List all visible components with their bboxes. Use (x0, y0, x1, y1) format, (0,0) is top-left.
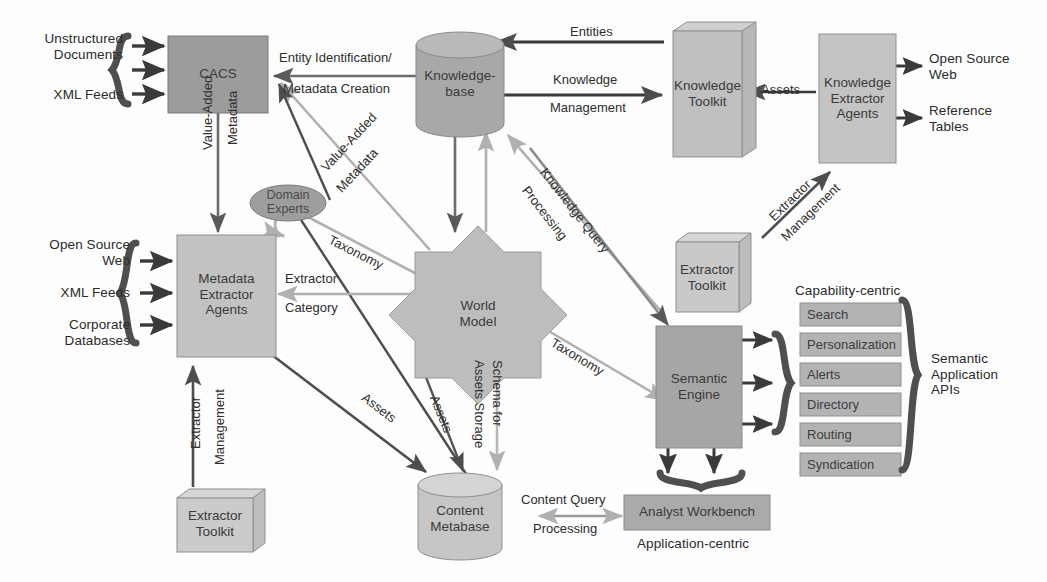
capability-group-label: Capability-centric (795, 283, 900, 299)
edge-label-extractor-category-2: Category (285, 300, 338, 315)
capability-box-3[interactable] (800, 393, 901, 416)
node-extractor-toolkit-left[interactable] (177, 489, 265, 552)
architecture-diagram: CACS Knowledge- base Knowledge Toolkit K… (0, 0, 1047, 582)
capability-box-2[interactable] (800, 363, 901, 386)
node-metadata-extractor-agents[interactable] (177, 235, 276, 357)
metadata-source-label-1: XML Feeds (26, 285, 130, 301)
node-analyst-workbench[interactable] (624, 495, 770, 530)
edge-label-knowledge-management-1: Knowledge (553, 72, 617, 87)
capability-boxes (800, 303, 901, 476)
cacs-source-label-1: XML Feeds (41, 87, 123, 103)
edge-label-schema-1: Schema for (490, 360, 505, 426)
metadata-source-label-0: Open Source Web (26, 237, 130, 268)
edge-label-cqp-2: Processing (533, 521, 597, 536)
capability-box-4[interactable] (800, 423, 901, 446)
brace-workbench-inputs (660, 473, 742, 488)
node-knowledge-extractor-agents[interactable] (819, 34, 896, 163)
node-cacs[interactable] (168, 36, 268, 113)
edge-label-extractor-management-left-2: Management (212, 389, 227, 465)
edge-label-assets-kea: Assets (761, 82, 800, 97)
extractor-target-label-0: Open Source Web (929, 51, 1010, 82)
edge-label-vam-cacs-1: Value-Added (200, 76, 215, 150)
metadata-source-label-2: Corporate Databases (26, 317, 130, 348)
brace-semantic-outputs (775, 334, 791, 432)
capability-box-5[interactable] (800, 453, 901, 476)
edge-label-entities: Entities (570, 24, 613, 39)
node-content-metabase[interactable] (418, 473, 502, 560)
edge-label-knowledge-management-2: Management (550, 100, 626, 115)
edge-label-cqp-1: Content Query (521, 492, 606, 507)
node-semantic-engine[interactable] (656, 326, 742, 448)
cacs-source-label-0: Unstructured Documents (41, 31, 123, 62)
edge-label-entity-identification-2: Metadata Creation (283, 81, 390, 96)
edge-label-extractor-category-1: Extractor (285, 271, 337, 286)
node-knowledge-toolkit[interactable] (673, 22, 756, 157)
node-extractor-toolkit-right[interactable] (676, 233, 751, 312)
node-domain-experts[interactable] (250, 185, 326, 221)
edge-label-extractor-management-left-1: Extractor (188, 397, 203, 449)
edge-label-entity-identification-1: Entity Identification/ (279, 50, 392, 65)
brace-semantic-apis (902, 300, 918, 470)
capability-box-1[interactable] (800, 333, 901, 356)
edge-label-schema-2: Assets Storage (472, 360, 487, 448)
edge-label-vam-cacs-2: Metadata (225, 91, 240, 145)
application-centric-label: Application-centric (637, 536, 749, 552)
node-knowledgebase[interactable] (416, 32, 504, 137)
semantic-application-apis-label: Semantic Application APIs (931, 351, 998, 398)
extractor-target-label-1: Reference Tables (929, 103, 992, 134)
capability-box-0[interactable] (800, 303, 901, 326)
